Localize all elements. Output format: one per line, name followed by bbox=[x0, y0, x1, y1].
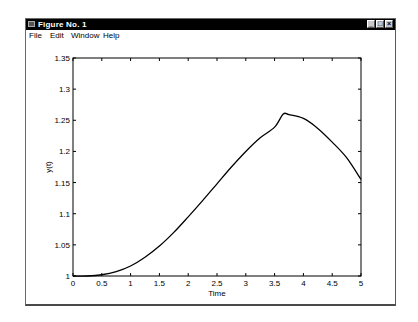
x-tick-label: 0 bbox=[71, 279, 76, 288]
y-tick-label: 1.25 bbox=[54, 116, 70, 125]
line-chart: 00.511.522.533.544.55 11.051.11.151.21.2… bbox=[0, 0, 418, 322]
y-tick-label: 1.05 bbox=[54, 241, 70, 250]
x-tick-label: 1.5 bbox=[154, 279, 166, 288]
tick-marks bbox=[73, 58, 361, 276]
y-tick-labels: 11.051.11.151.21.251.31.35 bbox=[54, 54, 70, 281]
data-line bbox=[73, 113, 361, 276]
x-tick-label: 4 bbox=[301, 279, 306, 288]
y-tick-label: 1.2 bbox=[59, 147, 71, 156]
x-tick-label: 0.5 bbox=[96, 279, 108, 288]
x-tick-label: 2.5 bbox=[211, 279, 223, 288]
y-tick-label: 1.3 bbox=[59, 85, 71, 94]
x-tick-label: 5 bbox=[359, 279, 364, 288]
y-axis-label: y(t) bbox=[44, 161, 53, 173]
y-tick-label: 1.35 bbox=[54, 54, 70, 63]
x-tick-label: 3 bbox=[244, 279, 249, 288]
y-tick-label: 1.15 bbox=[54, 179, 70, 188]
x-axis-label: Time bbox=[208, 289, 226, 298]
x-tick-label: 1 bbox=[128, 279, 133, 288]
x-tick-labels: 00.511.522.533.544.55 bbox=[71, 279, 364, 288]
y-tick-label: 1 bbox=[66, 272, 71, 281]
y-tick-label: 1.1 bbox=[59, 210, 71, 219]
x-tick-label: 3.5 bbox=[269, 279, 281, 288]
axes bbox=[73, 58, 361, 276]
x-tick-label: 2 bbox=[186, 279, 191, 288]
x-tick-label: 4.5 bbox=[327, 279, 339, 288]
